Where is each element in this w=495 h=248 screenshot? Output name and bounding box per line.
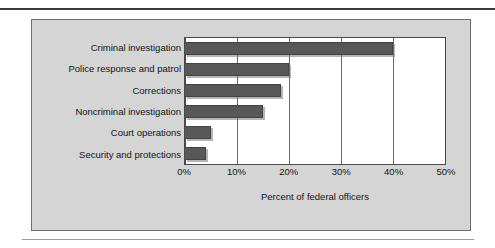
category-label: Court operations (40, 122, 185, 143)
bar (185, 147, 206, 160)
category-label: Police response and patrol (40, 58, 185, 79)
gridline (445, 38, 446, 164)
bottom-rule (22, 239, 474, 240)
bar (185, 42, 393, 55)
bar-row (185, 122, 445, 143)
plot-area (184, 37, 446, 165)
bar (185, 63, 289, 76)
x-tick-label: 50% (436, 167, 455, 177)
figure-panel: Criminal investigation Police response a… (31, 19, 471, 231)
bar-row (185, 59, 445, 80)
x-tick-label: 30% (332, 167, 351, 177)
bar (185, 126, 211, 139)
value-axis: 0%10%20%30%40%50% (184, 167, 446, 181)
category-axis: Criminal investigation Police response a… (40, 37, 185, 165)
category-label: Corrections (40, 80, 185, 101)
top-rule (0, 8, 495, 10)
x-tick-label: 20% (279, 167, 298, 177)
x-tick-label: 10% (227, 167, 246, 177)
bar-row (185, 80, 445, 101)
bar-row (185, 38, 445, 59)
bar (185, 84, 281, 97)
category-label: Noncriminal investigation (40, 101, 185, 122)
x-tick-label: 40% (384, 167, 403, 177)
axis-title: Percent of federal officers (184, 192, 446, 202)
category-label: Criminal investigation (40, 37, 185, 58)
bar (185, 105, 263, 118)
bars-layer (185, 38, 445, 164)
bar-row (185, 143, 445, 164)
category-label: Security and protections (40, 144, 185, 165)
bar-row (185, 101, 445, 122)
x-tick-label: 0% (177, 167, 191, 177)
